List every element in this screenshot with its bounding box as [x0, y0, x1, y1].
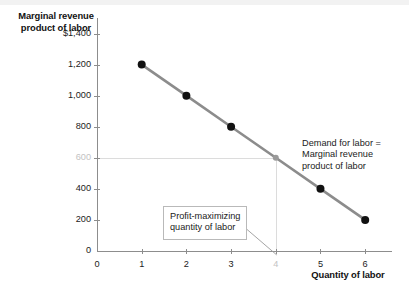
chart-figure: Marginal revenue product of labor Quanti… [0, 0, 409, 293]
demand-curve-label: Demand for labor = Marginal revenue prod… [302, 138, 406, 172]
profit-callout-line-2: quantity of labor [170, 222, 241, 233]
profit-maximizing-callout: Profit-maximizing quantity of labor [163, 206, 247, 240]
data-point-marker-highlight [273, 155, 279, 161]
callout-leader-line [243, 226, 277, 255]
data-point-marker [138, 61, 146, 69]
data-point-marker [227, 123, 235, 131]
data-point-marker [361, 216, 369, 224]
data-point-marker [182, 92, 190, 100]
demand-label-line-2: Marginal revenue [302, 149, 406, 160]
demand-label-line-1: Demand for labor = [302, 138, 406, 149]
demand-label-line-3: product of labor [302, 161, 406, 172]
data-point-marker [316, 185, 324, 193]
profit-callout-line-1: Profit-maximizing [170, 211, 241, 222]
